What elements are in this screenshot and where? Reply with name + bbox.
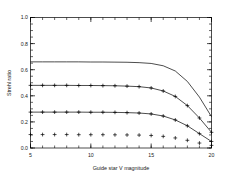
strehl-ratio-chart: 5101520 0.00.20.40.60.81.0 Guide star V …: [0, 0, 234, 176]
figure-background: [0, 0, 234, 176]
x-tick-label: 5: [29, 152, 32, 158]
y-tick-label: 0.6: [21, 67, 28, 73]
y-axis-title: Strehl ratio: [6, 70, 12, 96]
y-tick-label: 0.2: [21, 119, 28, 125]
x-tick-label: 20: [209, 152, 215, 158]
y-tick-label: 0.0: [21, 145, 28, 151]
x-axis-title: Guide star V magnitude: [93, 165, 150, 171]
y-tick-label: 0.8: [21, 41, 28, 47]
y-tick-label: 0.4: [21, 93, 28, 99]
x-tick-label: 10: [88, 152, 94, 158]
figure-container: 5101520 0.00.20.40.60.81.0 Guide star V …: [0, 0, 234, 176]
y-tick-label: 1.0: [21, 14, 28, 20]
x-tick-label: 15: [148, 152, 154, 158]
